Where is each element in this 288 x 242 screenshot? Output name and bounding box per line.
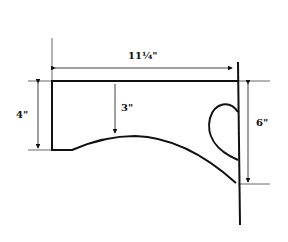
cutout-curve [209,104,238,160]
width-label: 11¼" [128,50,158,61]
height-right-label: 6" [256,117,268,128]
height-left-label: 4" [16,109,28,120]
arc-depth-label: 3" [121,102,133,113]
right-vertical-line [238,62,240,225]
drawing-canvas: 11¼" 4" 3" 6" [0,0,288,242]
